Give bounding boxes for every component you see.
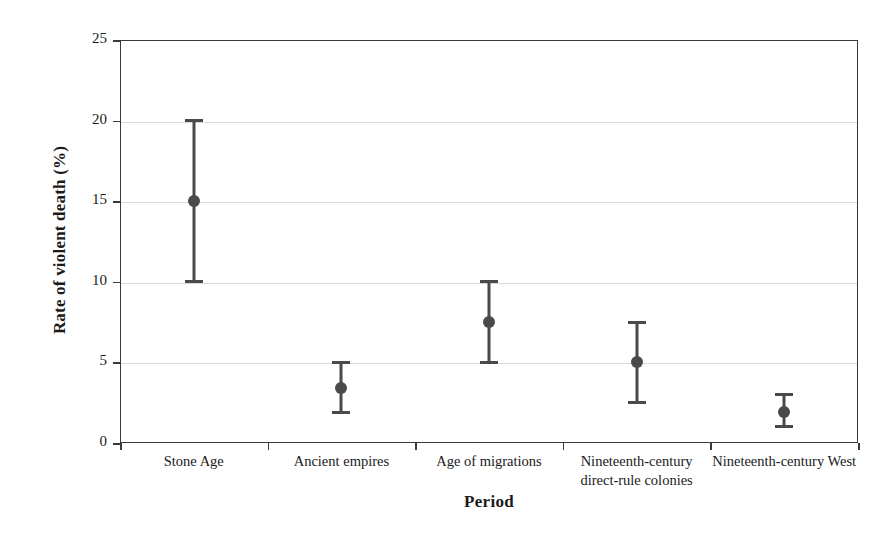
y-axis-tick-label: 5 xyxy=(67,353,107,368)
x-axis-category-label: Ancient empires xyxy=(268,452,416,471)
x-axis-category-label: Nineteenth-century direct-rule colonies xyxy=(563,452,711,490)
y-axis-tick-mark xyxy=(113,40,120,42)
y-axis-tick-label: 10 xyxy=(67,273,107,288)
error-bar-cap-upper xyxy=(185,119,203,122)
x-axis-tick-mark xyxy=(120,443,122,450)
error-bar-cap-lower xyxy=(775,425,793,428)
x-axis-tick-mark xyxy=(858,443,860,450)
x-axis-tick-mark xyxy=(710,443,712,450)
chart-figure: Rate of violent death (%) Period 0510152… xyxy=(0,0,890,533)
y-axis-tick-mark xyxy=(113,282,120,284)
error-bar-cap-upper xyxy=(332,361,350,364)
x-axis-title: Period xyxy=(120,492,858,512)
error-bar-cap-lower xyxy=(185,280,203,283)
x-axis-tick-mark xyxy=(415,443,417,450)
error-bar-cap-lower xyxy=(480,361,498,364)
data-point-marker xyxy=(335,382,347,394)
gridline xyxy=(121,122,857,123)
y-axis-tick-label: 0 xyxy=(67,434,107,449)
error-bar-cap-upper xyxy=(480,280,498,283)
x-axis-tick-mark xyxy=(563,443,565,450)
y-axis-tick-mark xyxy=(113,121,120,123)
y-axis-tick-mark xyxy=(113,362,120,364)
gridline xyxy=(121,202,857,203)
y-axis-tick-label: 25 xyxy=(67,31,107,46)
y-axis-tick-mark xyxy=(113,201,120,203)
y-axis-title: Rate of violent death (%) xyxy=(40,30,80,450)
x-axis-category-label: Age of migrations xyxy=(415,452,563,471)
error-bar-cap-lower xyxy=(628,401,646,404)
y-axis-tick-mark xyxy=(113,443,120,445)
data-point-marker xyxy=(778,406,790,418)
y-axis-tick-label: 20 xyxy=(67,112,107,127)
error-bar-cap-upper xyxy=(628,321,646,324)
data-point-marker xyxy=(631,356,643,368)
plot-area xyxy=(120,40,858,443)
data-point-marker xyxy=(483,316,495,328)
x-axis-tick-mark xyxy=(268,443,270,450)
x-axis-category-label: Nineteenth-century West xyxy=(710,452,858,471)
y-axis-tick-label: 15 xyxy=(67,192,107,207)
error-bar-cap-upper xyxy=(775,393,793,396)
x-axis-category-label: Stone Age xyxy=(120,452,268,471)
error-bar-cap-lower xyxy=(332,411,350,414)
data-point-marker xyxy=(188,195,200,207)
